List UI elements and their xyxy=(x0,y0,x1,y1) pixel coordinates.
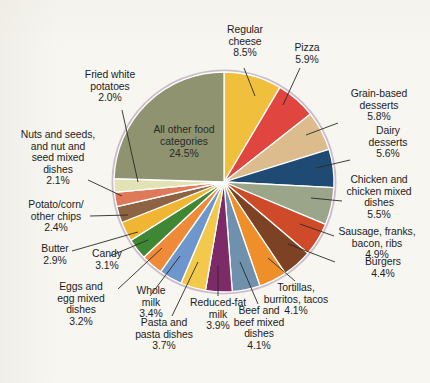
inside-label-line1: All other food xyxy=(153,124,214,135)
callout-butter: Butter 2.9% xyxy=(26,243,84,266)
inside-label-line2: categories xyxy=(160,136,208,147)
callout-pasta: Pasta and pasta dishes 3.7% xyxy=(118,317,210,352)
callout-chips: Potato/corn/ other chips 2.4% xyxy=(18,199,94,234)
callout-grain-based-desserts: Grain-based desserts 5.8% xyxy=(330,88,428,123)
callout-chicken: Chicken and chicken mixed dishes 5.5% xyxy=(330,174,428,220)
chart-page: All other food categories 24.5% Regular … xyxy=(0,0,430,383)
callout-burgers: Burgers 4.4% xyxy=(352,256,414,279)
callout-regular-cheese: Regular cheese 8.5% xyxy=(206,24,284,59)
callout-fried-white-potatoes: Fried white potatoes 2.0% xyxy=(70,69,150,104)
callout-eggs: Eggs and egg mixed dishes 3.2% xyxy=(42,281,120,327)
callout-pizza: Pizza 5.9% xyxy=(276,42,338,65)
inside-label-line3: 24.5% xyxy=(169,148,198,159)
callout-whole-milk: Whole milk 3.4% xyxy=(122,285,180,320)
callout-candy: Candy 3.1% xyxy=(78,248,136,271)
callout-dairy-desserts: Dairy desserts 5.6% xyxy=(350,125,426,160)
callout-nuts: Nuts and seeds, and nut and seed mixed d… xyxy=(12,129,104,187)
